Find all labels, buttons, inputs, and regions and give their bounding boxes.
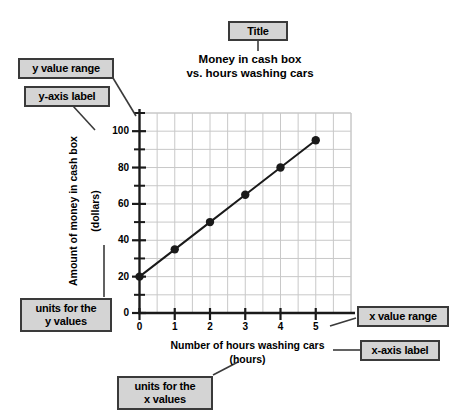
data-point xyxy=(206,218,214,226)
x-tick-label: 0 xyxy=(130,321,150,332)
data-point xyxy=(312,136,320,144)
leader-y-value-range xyxy=(113,78,136,116)
leader-x-value-range xyxy=(330,318,356,326)
callout-y-axis-label-label: y-axis label xyxy=(39,90,96,103)
figure-root: Money in cash box vs. hours washing cars… xyxy=(0,0,476,416)
callout-title[interactable]: Title xyxy=(228,21,288,41)
callout-y-axis-label[interactable]: y-axis label xyxy=(24,86,110,107)
data-point xyxy=(276,163,284,171)
y-tick-label: 80 xyxy=(103,162,129,173)
callout-units-x-line-1: units for the xyxy=(135,380,196,393)
callout-units-x[interactable]: units for the x values xyxy=(117,376,213,410)
y-axis-label-text: Amount of money in cash box xyxy=(67,111,79,311)
x-axis-units-text: (hours) xyxy=(140,352,355,366)
data-point xyxy=(135,272,143,280)
chart-title-line-1: Money in cash box xyxy=(150,52,350,66)
y-tick-label: 60 xyxy=(103,198,129,209)
callout-x-axis-label[interactable]: x-axis label xyxy=(360,340,440,361)
callout-x-value-range-label: x value range xyxy=(369,310,437,323)
callout-title-label: Title xyxy=(247,25,268,38)
y-tick-label: 40 xyxy=(103,234,129,245)
chart-title-line-2: vs. hours washing cars xyxy=(150,66,350,80)
callout-units-y-line-2: y values xyxy=(45,315,87,328)
x-tick-label: 5 xyxy=(306,321,326,332)
callout-units-y-line-1: units for the xyxy=(36,302,97,315)
callout-x-value-range[interactable]: x value range xyxy=(357,306,449,327)
callout-x-axis-label-label: x-axis label xyxy=(372,344,429,357)
data-point xyxy=(171,245,179,253)
x-tick-label: 4 xyxy=(271,321,291,332)
data-point xyxy=(241,191,249,199)
callout-y-value-range-label: y value range xyxy=(32,62,100,75)
y-tick-label: 100 xyxy=(103,125,129,136)
y-axis-units-text: (dollars) xyxy=(89,111,101,311)
chart-title: Money in cash box vs. hours washing cars xyxy=(150,52,350,80)
callout-units-x-line-2: x values xyxy=(144,393,186,406)
y-tick-label: 20 xyxy=(103,271,129,282)
x-tick-label: 3 xyxy=(235,321,255,332)
callout-y-value-range[interactable]: y value range xyxy=(18,58,114,79)
x-axis-label-text: Number of hours washing cars xyxy=(140,338,355,352)
x-tick-label: 2 xyxy=(200,321,220,332)
x-tick-label: 1 xyxy=(165,321,185,332)
callout-units-y[interactable]: units for the y values xyxy=(20,298,112,332)
